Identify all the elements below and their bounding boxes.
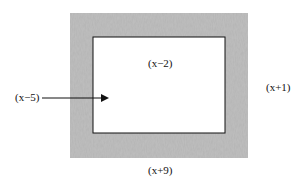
inner-width-label: (x−2) — [148, 57, 173, 69]
inner-rectangle — [93, 37, 225, 133]
inner-height-label: (x−5) — [15, 91, 40, 103]
outer-width-label: (x+9) — [148, 164, 173, 176]
outer-height-label: (x+1) — [266, 81, 291, 93]
diagram-canvas — [0, 0, 303, 182]
